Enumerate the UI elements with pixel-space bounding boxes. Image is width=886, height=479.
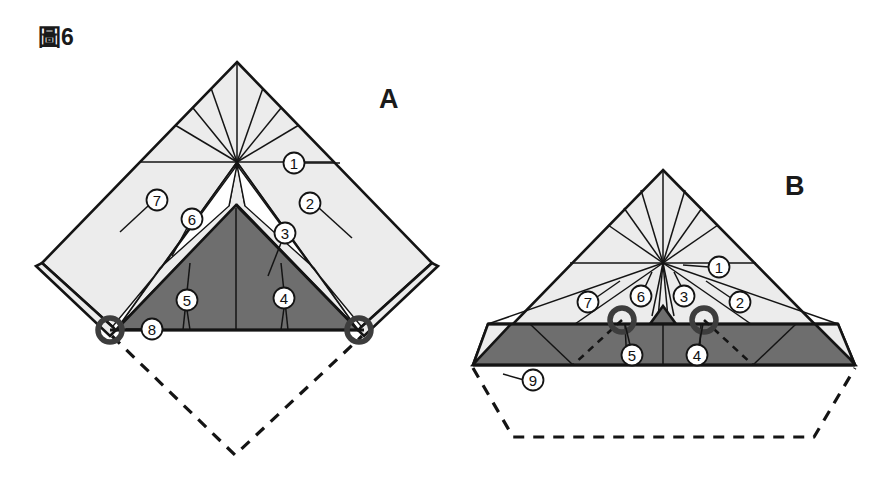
callout-b-2-label: 2 bbox=[736, 294, 744, 311]
callout-b-6-label: 6 bbox=[637, 288, 645, 305]
panel-b-letter: B bbox=[785, 171, 805, 201]
dark-band bbox=[473, 324, 855, 365]
callout-a-7-label: 7 bbox=[153, 192, 161, 209]
figure-canvas: 圖6 A bbox=[0, 0, 886, 479]
panel-a: A bbox=[36, 62, 438, 455]
callout-a-6-label: 6 bbox=[188, 211, 196, 228]
callout-a-8-label: 8 bbox=[148, 321, 156, 338]
callout-a-4-label: 4 bbox=[280, 290, 288, 307]
callout-a-1-label: 1 bbox=[290, 155, 298, 172]
panel-a-letter: A bbox=[379, 84, 399, 114]
callout-b-5-label: 5 bbox=[628, 347, 636, 364]
figure-number-label: 圖6 bbox=[38, 24, 74, 50]
callout-a-3-label: 3 bbox=[281, 225, 289, 242]
callout-a-5-label: 5 bbox=[183, 292, 191, 309]
callout-a-2-label: 2 bbox=[306, 195, 314, 212]
panel-b-dark-region bbox=[473, 324, 855, 365]
callout-b-9-label: 9 bbox=[529, 372, 537, 389]
panel-b: B bbox=[473, 170, 855, 437]
callout-b-1-label: 1 bbox=[715, 259, 723, 276]
callout-b-4-label: 4 bbox=[693, 347, 701, 364]
callout-b-9[interactable]: 9 bbox=[503, 370, 544, 391]
callout-b-7-label: 7 bbox=[584, 294, 592, 311]
panel-a-dashed-outline bbox=[112, 336, 362, 455]
callout-b-3-label: 3 bbox=[680, 288, 688, 305]
